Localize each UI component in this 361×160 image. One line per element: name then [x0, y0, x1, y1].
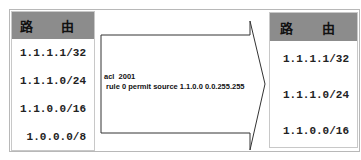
acl-config-text: acl 2001 rule 0 permit source 1.1.0.0 0.…	[104, 72, 245, 92]
route-entry: 1.1.1.0/24	[270, 77, 357, 113]
route-table-header: 路 由	[270, 13, 357, 41]
acl-line: acl 2001	[104, 72, 245, 82]
route-entry: 1.1.1.1/32	[270, 41, 357, 77]
route-entry: 1.1.0.0/16	[270, 113, 357, 149]
acl-rule-line: rule 0 permit source 1.1.0.0 0.0.255.255	[104, 82, 245, 92]
output-route-table: 路 由 1.1.1.1/32 1.1.1.0/24 1.1.0.0/16	[269, 12, 358, 148]
